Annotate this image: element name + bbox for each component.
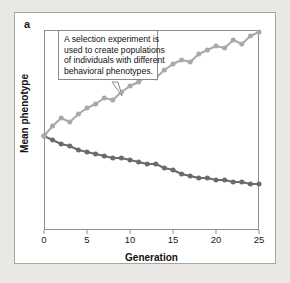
data-point-marker xyxy=(110,156,115,161)
data-point-marker xyxy=(85,150,90,155)
x-axis-tick-label: 15 xyxy=(168,234,179,245)
data-point-marker xyxy=(110,98,115,103)
callout-line: A selection experiment is xyxy=(64,34,153,45)
data-point-marker xyxy=(119,156,124,161)
data-point-marker xyxy=(128,84,133,89)
data-point-marker xyxy=(162,166,167,171)
data-point-marker xyxy=(93,102,98,107)
data-point-marker xyxy=(222,178,227,183)
data-point-marker xyxy=(214,178,219,183)
data-point-marker xyxy=(239,180,244,185)
series-low-line xyxy=(42,134,262,187)
data-point-marker xyxy=(196,176,201,181)
data-point-marker xyxy=(42,134,47,139)
data-point-marker xyxy=(59,116,64,121)
data-point-marker xyxy=(59,142,64,147)
data-point-marker xyxy=(248,34,253,39)
data-point-marker xyxy=(231,180,236,185)
x-axis-tick-label: 0 xyxy=(41,234,46,245)
data-point-marker xyxy=(179,58,184,63)
callout-line: behavioral phenotypes. xyxy=(64,66,153,77)
x-axis-tick-label: 10 xyxy=(125,234,136,245)
data-point-marker xyxy=(188,60,193,65)
data-point-marker xyxy=(76,148,81,153)
x-axis-ticks xyxy=(44,230,259,234)
y-axis-label: Mean phenotype xyxy=(19,44,30,184)
callout-line: used to create populations xyxy=(64,45,153,56)
data-point-marker xyxy=(205,48,210,53)
data-point-marker xyxy=(248,182,253,187)
figure-panel: a Mean phenotype Generation 0510152025 A… xyxy=(0,0,290,283)
data-point-marker xyxy=(257,182,262,187)
data-point-marker xyxy=(50,124,55,129)
data-point-marker xyxy=(128,158,133,163)
data-point-marker xyxy=(76,112,81,117)
series-line xyxy=(44,136,259,184)
data-point-marker xyxy=(67,144,72,149)
data-point-marker xyxy=(145,162,150,167)
callout-pointer xyxy=(112,82,122,96)
data-point-marker xyxy=(214,44,219,49)
data-point-marker xyxy=(205,176,210,181)
data-point-marker xyxy=(93,152,98,157)
data-point-marker xyxy=(179,172,184,177)
data-point-marker xyxy=(171,62,176,67)
data-point-marker xyxy=(239,42,244,47)
data-point-marker xyxy=(102,154,107,159)
data-point-marker xyxy=(102,96,107,101)
data-point-marker xyxy=(162,68,167,73)
x-axis-label: Generation xyxy=(44,252,259,263)
data-point-marker xyxy=(85,106,90,111)
data-point-marker xyxy=(188,174,193,179)
x-axis-tick-label: 25 xyxy=(254,234,265,245)
callout-line: of individuals with different xyxy=(64,55,153,66)
data-point-marker xyxy=(257,30,262,35)
data-point-marker xyxy=(50,138,55,143)
data-point-marker xyxy=(171,168,176,173)
data-point-marker xyxy=(231,38,236,43)
x-axis-tick-label: 5 xyxy=(84,234,89,245)
data-point-marker xyxy=(196,52,201,57)
data-point-marker xyxy=(67,120,72,125)
x-axis-tick-label: 20 xyxy=(211,234,222,245)
callout-box: A selection experiment is used to create… xyxy=(58,30,158,80)
data-point-marker xyxy=(222,46,227,51)
data-point-marker xyxy=(136,160,141,165)
data-point-marker xyxy=(153,162,158,167)
